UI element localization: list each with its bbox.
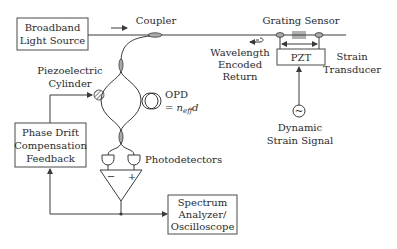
dynamic-signal-label-2: Strain Signal <box>267 135 333 146</box>
piezo-cylinder-icon <box>94 90 104 100</box>
feedback-to-piezo-arrow <box>50 95 92 123</box>
minus-sign: − <box>107 171 115 182</box>
spectrum-analyzer-block: Spectrum Analyzer/ Oscilloscope <box>168 195 237 234</box>
fbg-sensor-diagram: Broadband Light Source Coupler OPD = nef… <box>0 0 397 249</box>
bragg-grating-icon <box>293 31 305 39</box>
opd-coil-icon <box>142 93 158 109</box>
mz-right-arm <box>121 71 141 132</box>
opd-equation: = neffd <box>165 102 199 115</box>
pd-right-fiber <box>121 142 134 155</box>
strain-transducer-label-2: Transducer <box>323 64 381 75</box>
phase-drift-label-3: Feedback <box>26 153 76 164</box>
coupler-label: Coupler <box>136 15 177 26</box>
opd-coil-icon-2 <box>145 93 161 109</box>
opd-label: OPD <box>165 89 188 100</box>
return-hook <box>250 38 263 42</box>
phase-drift-label-2: Compensation <box>14 140 87 151</box>
photodetectors-label: Photodetectors <box>145 154 222 165</box>
phase-drift-label-1: Phase Drift <box>22 127 79 138</box>
analyzer-label-2: Analyzer/ <box>178 209 227 220</box>
mz-input-coupler-icon <box>119 59 123 71</box>
mz-output-coupler-icon <box>119 131 123 143</box>
mz-left-arm <box>101 71 121 132</box>
return-label-3: Return <box>222 71 258 82</box>
right-clamp-icon <box>315 33 323 38</box>
coupler-icon <box>148 33 162 37</box>
pzt-label: PZT <box>291 52 312 63</box>
photodetector-plus-icon <box>128 155 140 165</box>
grating-sensor-label: Grating Sensor <box>262 15 339 26</box>
left-clamp-icon <box>276 33 284 38</box>
coupler-branch-fiber <box>121 36 150 60</box>
plus-sign: + <box>128 171 136 182</box>
pzt-block: PZT <box>277 49 325 65</box>
return-label-1: Wavelength <box>210 47 270 58</box>
photodetector-minus-icon <box>102 155 114 165</box>
light-source-label-2: Light Source <box>20 35 86 46</box>
light-source-label-1: Broadband <box>25 22 81 33</box>
dynamic-signal-label-1: Dynamic <box>278 122 323 133</box>
strain-transducer-label-1: Strain <box>336 51 368 62</box>
light-source-block: Broadband Light Source <box>17 18 88 50</box>
pd-left-fiber <box>108 142 121 155</box>
return-label-2: Encoded <box>218 59 263 70</box>
analyzer-label-3: Oscilloscope <box>171 221 235 232</box>
piezo-label-2: Cylinder <box>48 78 91 89</box>
phase-drift-block: Phase Drift Compensation Feedback <box>14 123 87 167</box>
sine-glyph: ~ <box>295 105 303 116</box>
analyzer-label-1: Spectrum <box>178 197 228 208</box>
piezo-label-1: Piezoelectric <box>37 65 103 76</box>
